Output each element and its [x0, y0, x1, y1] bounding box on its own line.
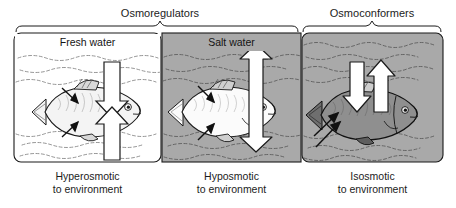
caption-hyperosmotic-line1: Hyperosmotic: [55, 170, 119, 182]
osmoregulation-diagram: Osmoregulators Osmoconformers: [0, 0, 456, 208]
brace-osmoregulators: [16, 21, 298, 32]
caption-hyperosmotic-line2: to environment: [53, 183, 122, 195]
caption-hyperosmotic: Hyperosmotic to environment: [14, 170, 161, 195]
panel-isosmotic-water: [302, 33, 443, 162]
caption-hyposmotic-line1: Hyposmotic: [204, 170, 259, 182]
caption-isosmotic-line1: Isosmotic: [350, 170, 394, 182]
group-label-osmoregulators: Osmoregulators: [90, 7, 230, 19]
group-label-osmoconformers: Osmoconformers: [302, 7, 442, 19]
caption-hyposmotic: Hyposmotic to environment: [162, 170, 301, 195]
caption-isosmotic-line2: to environment: [338, 183, 407, 195]
brace-osmoconformers: [303, 21, 441, 32]
panel-salt-water: [162, 33, 304, 162]
panel-label-fresh-water: Fresh water: [14, 37, 161, 48]
panel-label-salt-water: Salt water: [162, 37, 301, 48]
caption-isosmotic: Isosmotic to environment: [302, 170, 443, 195]
caption-hyposmotic-line2: to environment: [197, 183, 266, 195]
panel-fresh-water: [14, 33, 170, 162]
